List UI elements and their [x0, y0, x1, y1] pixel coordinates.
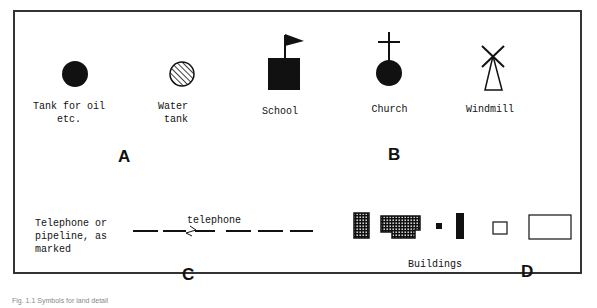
- buildings-icon: [350, 210, 580, 245]
- cross-circle-icon: [372, 30, 406, 90]
- label-buildings: Buildings: [400, 258, 470, 271]
- panel-letter-b: B: [388, 145, 400, 165]
- filled-circle-icon: [61, 60, 91, 90]
- figure-caption: Fig. 1.1 Symbols for land detail: [12, 297, 108, 304]
- label-windmill: Windmill: [455, 103, 525, 116]
- panel-letter-d: D: [521, 262, 533, 282]
- label-school: School: [255, 105, 305, 118]
- panel-letter-a: A: [118, 147, 130, 167]
- windmill-icon: [478, 42, 508, 92]
- telephone-line-icon: [130, 225, 320, 237]
- label-church: Church: [362, 103, 417, 116]
- hatched-circle-icon: [168, 60, 198, 90]
- label-water-tank: Water tank: [158, 100, 208, 126]
- flag-square-icon: [266, 32, 316, 92]
- label-oil-tank: Tank for oil etc.: [33, 100, 115, 126]
- label-telephone-pipeline: Telephone or pipeline, as marked: [35, 217, 107, 256]
- panel-letter-c: C: [182, 265, 194, 285]
